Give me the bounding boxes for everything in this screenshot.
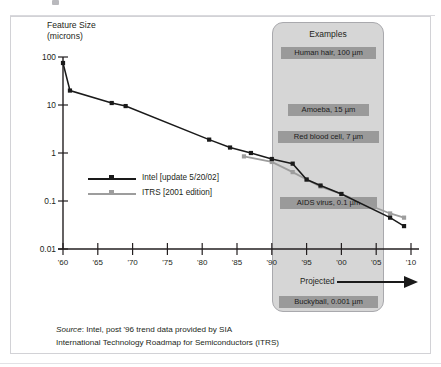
data-point	[207, 138, 211, 142]
data-point	[388, 211, 392, 215]
source-prefix: Source	[56, 325, 82, 334]
x-tick-label: '70	[115, 258, 151, 267]
data-point	[124, 104, 128, 108]
projected-arrow-head	[404, 276, 418, 288]
data-point	[228, 145, 232, 149]
x-tick-label: '65	[80, 258, 116, 267]
data-point	[388, 216, 392, 220]
data-point	[402, 216, 406, 220]
y-tick-label: 0.01	[18, 244, 56, 254]
y-tick-label: 1	[18, 148, 56, 158]
x-tick-label: '85	[219, 258, 255, 267]
legend-label-itrs: ITRS [2001 edition]	[142, 188, 212, 197]
source-line1: : Intel, post '96 trend data provided by…	[82, 325, 232, 334]
data-point	[110, 101, 114, 105]
x-tick-label: '75	[149, 258, 185, 267]
data-point	[68, 88, 72, 92]
x-tick-label: '80	[184, 258, 220, 267]
data-point	[318, 183, 322, 187]
projected-label: Projected	[300, 277, 335, 286]
chart-figure: Examples Human hair, 100 µm Amoeba, 15 µ…	[0, 0, 441, 367]
x-tick-label: '00	[323, 258, 359, 267]
x-tick-label: '05	[358, 258, 394, 267]
data-point	[291, 170, 295, 174]
data-point	[305, 177, 309, 181]
bottom-divider	[0, 363, 441, 364]
x-tick-label: '60	[45, 258, 81, 267]
legend-swatch-marker-itrs	[109, 190, 114, 195]
data-point	[402, 224, 406, 228]
legend-label-intel: Intel [update 5/20/02]	[142, 173, 219, 182]
data-point	[242, 154, 246, 158]
plot-area	[0, 0, 441, 367]
data-point	[270, 157, 274, 161]
x-tick-label: '10	[393, 258, 429, 267]
data-point	[61, 61, 65, 65]
data-point	[291, 162, 295, 166]
legend-swatch-marker-intel	[109, 175, 114, 180]
data-point	[249, 151, 253, 155]
data-point	[339, 192, 343, 196]
y-tick-label: 10	[18, 100, 56, 110]
x-tick-label: '95	[289, 258, 325, 267]
series-line-intel	[63, 63, 404, 226]
y-tick-label: 100	[18, 52, 56, 62]
x-tick-label: '90	[254, 258, 290, 267]
y-tick-label: 0.1	[18, 196, 56, 206]
source-line2: International Technology Roadmap for Sem…	[56, 338, 279, 347]
source-note: Source: Intel, post '96 trend data provi…	[56, 324, 279, 349]
